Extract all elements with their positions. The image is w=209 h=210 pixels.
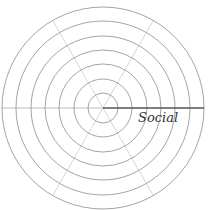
polar-chart: Social: [0, 0, 209, 210]
axis-label-social: Social: [138, 110, 178, 125]
